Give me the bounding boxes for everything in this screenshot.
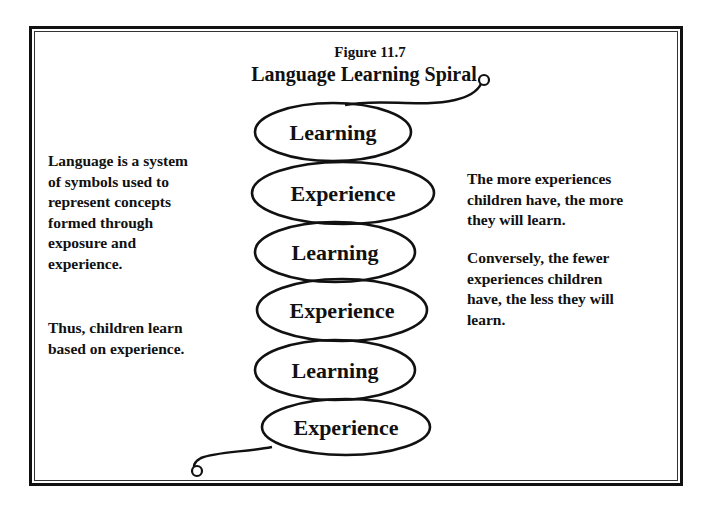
spiral-label-learning: Learning — [292, 358, 379, 383]
spiral-bottom-tail — [194, 447, 272, 469]
spiral-bottom-end-ring — [192, 466, 202, 476]
spiral-label-learning: Learning — [290, 120, 377, 145]
spiral-label-experience: Experience — [289, 298, 394, 323]
spiral-label-learning: Learning — [292, 240, 379, 265]
spiral-top-end-ring — [479, 75, 489, 85]
spiral-label-experience: Experience — [290, 181, 395, 206]
spiral-label-experience: Experience — [293, 415, 398, 440]
learning-spiral: LearningExperienceLearningExperienceLear… — [0, 0, 720, 511]
spiral-top-tail — [345, 84, 481, 105]
